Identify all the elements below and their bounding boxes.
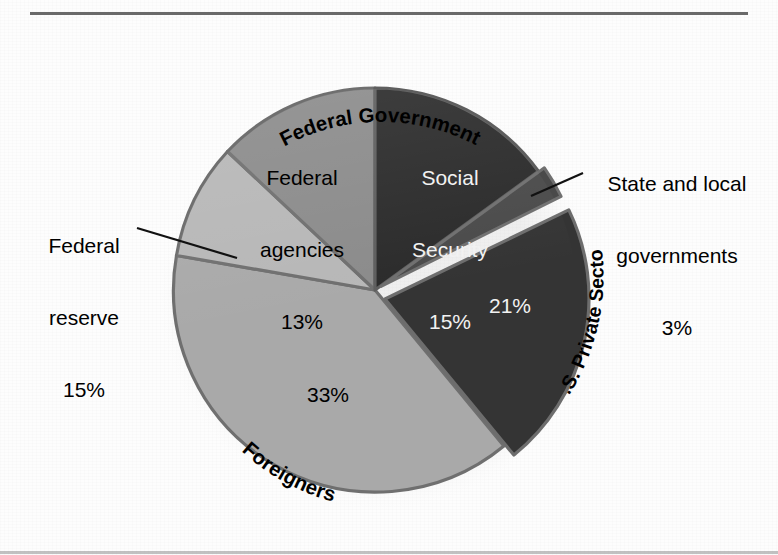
slice-label-social-security-line1: Social (390, 166, 510, 190)
slice-value-federal-reserve: 15% (24, 378, 144, 402)
slice-label-federal-reserve-line2: reserve (24, 306, 144, 330)
slice-value-foreigners: 33% (288, 383, 368, 407)
slice-label-federal-reserve: Federal reserve 15% (24, 186, 144, 449)
top-rule (30, 12, 748, 15)
slice-label-federal-reserve-line1: Federal (24, 234, 144, 258)
slice-value-us-private-sector: 21% (470, 294, 550, 318)
bottom-rule (0, 551, 778, 554)
figure-canvas: Federal Government Foreigners U.S. Priva… (0, 0, 778, 555)
slice-label-state-and-local-governments: State and local governments 3% (586, 124, 768, 387)
slice-label-state-and-local-line1: State and local (586, 172, 768, 196)
slice-label-social-security: Social Security 15% (390, 118, 510, 381)
slice-label-federal-agencies: Federal agencies 13% (232, 118, 372, 381)
slice-label-state-and-local-line2: governments (586, 244, 768, 268)
slice-label-federal-agencies-line1: Federal (232, 166, 372, 190)
slice-label-federal-agencies-line2: agencies (232, 238, 372, 262)
slice-value-federal-agencies: 13% (232, 310, 372, 334)
slice-value-state-and-local-governments: 3% (586, 316, 768, 340)
slice-label-social-security-line2: Security (390, 238, 510, 262)
